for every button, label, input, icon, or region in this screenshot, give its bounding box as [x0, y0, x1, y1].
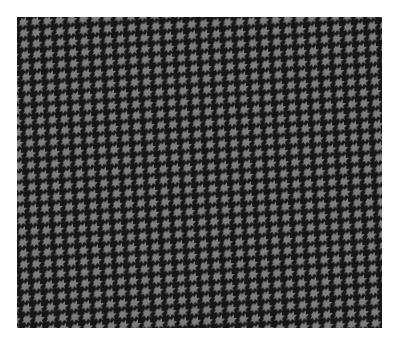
houndstooth-fabric-swatch	[17, 17, 382, 328]
houndstooth-pattern	[17, 17, 382, 328]
